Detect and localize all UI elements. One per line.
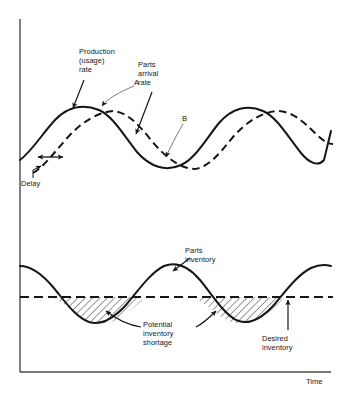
figure-container: Production (usage) rate Parts arrival ra… <box>0 0 352 411</box>
delay-label: Delay <box>21 179 40 188</box>
production-rate-arrow <box>73 80 84 108</box>
point-a-label: A <box>134 78 139 87</box>
x-axis-label: Time <box>306 377 323 386</box>
axes-group <box>20 19 331 372</box>
rates-panel <box>20 80 333 178</box>
potential-shortage-label: Potential inventory shortage <box>143 320 173 348</box>
parts-arrival-rate-label: Parts arrival rate <box>138 60 158 88</box>
point-b-leader <box>166 124 183 157</box>
point-a-leader <box>102 86 134 106</box>
parts-inventory-curve <box>20 264 331 323</box>
desired-inventory-label: Desired inventory <box>262 334 292 352</box>
diagram-canvas <box>0 0 352 411</box>
production-rate-label: Production (usage) rate <box>79 47 115 75</box>
parts-arrival-rate-arrow <box>136 92 152 134</box>
inventory-panel <box>20 258 333 335</box>
parts-inventory-label: Parts inventory <box>185 246 215 264</box>
potential-shortage-leader-right <box>196 311 216 327</box>
point-b-label: B <box>182 114 187 123</box>
